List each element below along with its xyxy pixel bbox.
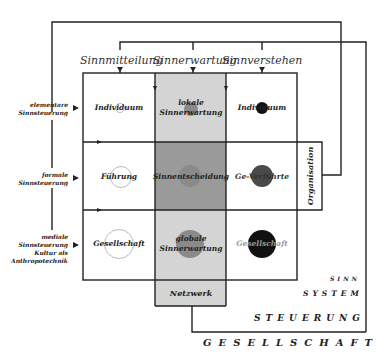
netzwerk-label: Netzwerk bbox=[170, 288, 212, 298]
row-label-elementare: elementare Sinnsteuerung bbox=[0, 101, 68, 117]
cell-sinnentscheidung: Sinnentscheidung bbox=[153, 172, 229, 182]
cell-gesellschaft-right: Gesellschaft bbox=[236, 239, 288, 249]
tier-sinn: SINN bbox=[330, 275, 360, 282]
cell-line: lokale bbox=[160, 98, 223, 108]
cell-line: Sinnerwartung bbox=[160, 244, 223, 254]
cell-line: globale bbox=[160, 234, 223, 244]
row-label-line: Sinnsteuerung bbox=[0, 109, 68, 117]
row-label-line: mediale bbox=[0, 233, 68, 241]
row-label-line: Sinnsteuerung bbox=[0, 179, 68, 187]
row-label-line: Anthropotechnik bbox=[0, 257, 68, 265]
column-header-sinnmitteilung: Sinnmitteilung bbox=[80, 54, 160, 67]
tier-steuerung: STEUERUNG bbox=[254, 313, 365, 323]
organisation-label: Organisation bbox=[305, 147, 315, 205]
cell-gesellschaft-left: Gesellschaft bbox=[93, 239, 145, 249]
row-label-line: elementare bbox=[0, 101, 68, 109]
row-label-formale: formale Sinnsteuerung bbox=[0, 171, 68, 187]
column-header-sinnverstehen: Sinnverstehen bbox=[222, 54, 302, 67]
column-header-sinnerwartung: Sinnerwartung bbox=[153, 54, 233, 67]
cell-ge-verfuehrte: Ge-Verführte bbox=[235, 172, 289, 182]
tier-gesellschaft: GESELLSCHAFT bbox=[203, 337, 379, 348]
row-label-line: Sinnsteuerung bbox=[0, 241, 68, 249]
cell-globale-sinnerwartung: globale Sinnerwartung bbox=[160, 234, 223, 254]
row-label-line: Kultur als bbox=[0, 249, 68, 257]
cell-fuehrung: Führung bbox=[101, 172, 137, 182]
cell-line: Sinnerwartung bbox=[160, 108, 223, 118]
cell-individuum-right: Individuum bbox=[238, 103, 286, 113]
row-label-line: formale bbox=[0, 171, 68, 179]
row-label-mediale: mediale Sinnsteuerung Kultur als Anthrop… bbox=[0, 233, 68, 265]
cell-lokale-sinnerwartung: lokale Sinnerwartung bbox=[160, 98, 223, 118]
cell-individuum-left: Individuum bbox=[95, 103, 143, 113]
tier-system: SYSTEM bbox=[303, 289, 363, 298]
